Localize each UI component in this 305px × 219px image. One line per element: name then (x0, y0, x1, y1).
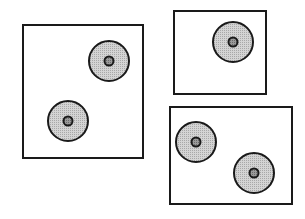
disc-icon (48, 101, 88, 141)
disc-icon (176, 122, 216, 162)
diagram-canvas (0, 0, 305, 219)
disc-core (105, 57, 114, 66)
box-bottom-right (170, 107, 292, 204)
disc-icon (89, 41, 129, 81)
disc-icon (213, 22, 253, 62)
box-outline (23, 25, 143, 158)
disc-icon (234, 153, 274, 193)
diagram-root (23, 11, 292, 204)
box-left (23, 25, 143, 158)
disc-core (192, 138, 201, 147)
box-top-right (174, 11, 266, 94)
disc-core (250, 169, 259, 178)
disc-core (64, 117, 73, 126)
disc-core (229, 38, 238, 47)
